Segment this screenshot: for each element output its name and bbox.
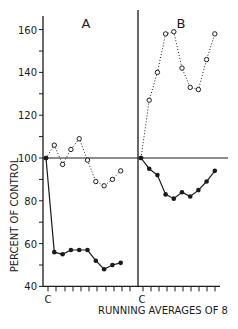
data-point-filled — [110, 263, 115, 268]
data-point-open — [94, 179, 98, 183]
data-point-open — [69, 147, 73, 151]
data-point-filled — [213, 169, 218, 174]
y-tick-label: 100 — [18, 153, 37, 164]
data-point-filled — [180, 190, 185, 195]
data-point-open — [110, 177, 114, 181]
data-point-filled — [204, 179, 209, 184]
series-line-open-panel-b — [141, 32, 215, 158]
y-tick-label: 120 — [18, 110, 37, 121]
x-start-label-b: C — [139, 294, 146, 305]
data-point-control — [44, 156, 49, 161]
y-tick-label: 40 — [24, 281, 37, 292]
y-tick-label: 160 — [18, 25, 37, 36]
data-point-open — [147, 98, 151, 102]
data-point-filled — [85, 248, 90, 253]
axes: 406080100120140160 — [18, 10, 228, 292]
data-point-open — [196, 87, 200, 91]
data-point-filled — [77, 248, 82, 253]
series-line-filled-panel-b — [141, 158, 215, 199]
x-axis-label: RUNNING AVERAGES OF 8 — [98, 305, 228, 316]
data-point-filled — [172, 196, 177, 201]
data-point-filled — [52, 250, 57, 255]
data-point-open — [180, 66, 184, 70]
panel-b-label: B — [177, 16, 186, 31]
data-point-filled — [188, 194, 193, 199]
y-tick-label: 140 — [18, 67, 37, 78]
data-point-filled — [147, 166, 152, 171]
x-start-label-a: C — [45, 294, 52, 305]
series-line-filled-panel-a — [46, 158, 121, 269]
data-point-open — [85, 158, 89, 162]
data-point-filled — [196, 188, 201, 193]
data-point-filled — [118, 261, 123, 266]
data-point-filled — [60, 252, 65, 257]
data-point-open — [213, 32, 217, 36]
panel-a-label: A — [82, 16, 91, 31]
data-point-filled — [102, 267, 107, 272]
y-tick-label: 60 — [24, 239, 37, 250]
data-point-open — [163, 32, 167, 36]
data-point-open — [204, 57, 208, 61]
data-point-filled — [94, 258, 99, 263]
data-point-open — [60, 162, 64, 166]
series-group — [44, 30, 217, 272]
data-point-open — [77, 137, 81, 141]
data-point-filled — [155, 173, 160, 178]
data-point-open — [52, 143, 56, 147]
data-point-open — [188, 85, 192, 89]
data-point-filled — [69, 248, 74, 253]
data-point-filled — [163, 192, 168, 197]
y-axis-label: PERCENT OF CONTROL — [9, 157, 20, 272]
data-point-control — [139, 156, 144, 161]
chart: 406080100120140160 A B PERCENT OF CONTRO… — [0, 0, 238, 329]
data-point-open — [119, 169, 123, 173]
data-point-open — [172, 30, 176, 34]
y-tick-label: 80 — [24, 196, 37, 207]
series-line-open-panel-a — [46, 139, 121, 186]
data-point-open — [155, 70, 159, 74]
data-point-open — [102, 184, 106, 188]
